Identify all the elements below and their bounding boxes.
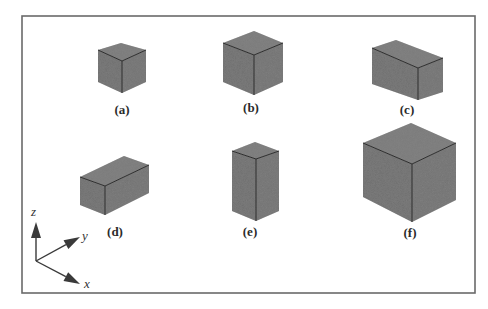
box-c: (c): [372, 40, 443, 117]
z-axis-label: z: [30, 204, 36, 219]
y-arrowhead-icon: [64, 237, 80, 249]
box-b: (b): [223, 31, 283, 115]
box-a-label: (a): [114, 102, 129, 117]
box-d: (d): [80, 156, 149, 239]
box-e-right-face: [256, 151, 279, 221]
coordinate-axes: z y x: [30, 204, 90, 291]
x-arrowhead-icon: [64, 272, 80, 284]
box-f-label: (f): [404, 225, 417, 240]
boxes-group: (a)(b)(c)(d)(e)(f): [80, 31, 456, 240]
box-b-label: (b): [243, 100, 259, 115]
box-d-label: (d): [107, 224, 123, 239]
box-e-label: (e): [243, 224, 257, 239]
box-e: (e): [232, 142, 279, 239]
box-e-left-face: [232, 151, 256, 221]
x-axis-label: x: [83, 276, 90, 291]
box-f: (f): [363, 123, 456, 240]
figure-canvas: (a)(b)(c)(d)(e)(f) z y x: [0, 0, 488, 309]
box-c-label: (c): [400, 102, 414, 117]
x-axis-line: [36, 261, 66, 277]
y-axis-label: y: [80, 228, 88, 243]
box-a: (a): [98, 43, 146, 117]
z-arrowhead-icon: [31, 222, 41, 238]
y-axis-line: [36, 245, 66, 261]
